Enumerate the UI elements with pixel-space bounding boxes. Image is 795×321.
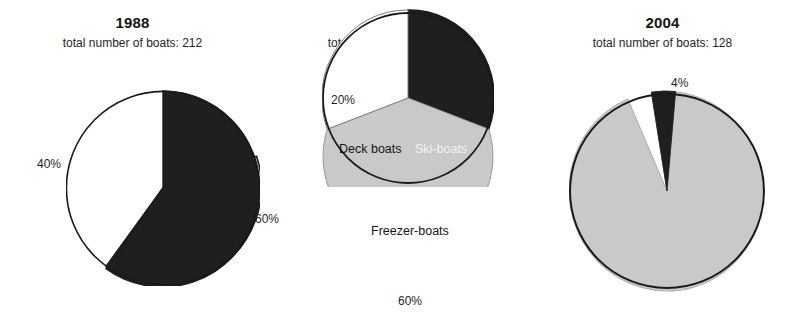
chart-panel-1988: 1988 total number of boats: 212 40% 60% — [0, 0, 265, 321]
slice-name-freezer-boats-1998: Freezer-boats — [371, 224, 449, 238]
pie-1988-svg — [66, 90, 260, 286]
pie-1988 — [66, 90, 260, 286]
slice-name-ski-boats-1998: Ski-boats — [415, 142, 467, 156]
pie-2004-svg — [569, 89, 765, 293]
pie-2004 — [569, 89, 765, 293]
slice-label-freezer-pct-1998: 60% — [398, 294, 422, 308]
panel-subtitle-2004: total number of boats: 128 — [530, 36, 795, 50]
slice-label-deck-pct-1998: 20% — [331, 93, 355, 107]
slice-name-deck-boats-1998: Deck boats — [339, 142, 402, 156]
chart-panel-1998: 1998 total number of boats: 202 20% 20% … — [265, 0, 530, 321]
panel-subtitle-1988: total number of boats: 212 — [0, 36, 265, 50]
chart-panel-2004: 2004 total number of boats: 128 4% — [530, 0, 795, 321]
slice-label-ski-pct-1998: 20% — [470, 93, 494, 107]
page-title-2004: 2004 — [530, 14, 795, 31]
slice-label-deck-pct-1988: 40% — [37, 157, 61, 171]
pie-slice-ski-boats-1988 — [106, 91, 259, 286]
pie-chart-figure: 1988 total number of boats: 212 40% 60% … — [0, 0, 795, 321]
page-title-1988: 1988 — [0, 14, 265, 31]
slice-label-ski-pct-2004: 4% — [671, 76, 688, 90]
